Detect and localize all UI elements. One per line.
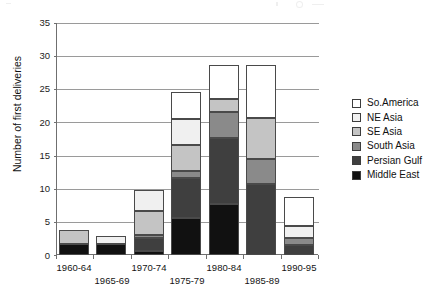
legend-item-se-asia[interactable]: SE Asia xyxy=(352,125,422,139)
y-tick-10: 10 xyxy=(20,184,50,194)
segment-se-asia-1985-89[interactable] xyxy=(246,118,276,158)
y-tick-25: 25 xyxy=(20,84,50,94)
x-label-1990-95: 1990-95 xyxy=(269,263,329,273)
segment-persian-gulf-1990-95[interactable] xyxy=(284,245,314,255)
y-tick-0: 0 xyxy=(20,251,50,261)
legend-swatch-icon xyxy=(352,99,361,108)
bars-layer xyxy=(56,23,318,255)
segment-persian-gulf-1980-84[interactable] xyxy=(209,138,239,204)
segment-persian-gulf-1975-79[interactable] xyxy=(171,178,201,218)
y-tick-15: 15 xyxy=(20,151,50,161)
legend-swatch-icon xyxy=(352,113,361,122)
segment-se-asia-1975-79[interactable] xyxy=(171,145,201,172)
legend-item-persian-gulf[interactable]: Persian Gulf xyxy=(352,154,422,168)
segment-south-asia-1970-74[interactable] xyxy=(134,235,164,238)
y-tick-35: 35 xyxy=(20,18,50,28)
segment-ne-asia-1990-95[interactable] xyxy=(284,226,314,239)
legend-item-south-asia[interactable]: South Asia xyxy=(352,139,422,153)
legend-item-middle-east[interactable]: Middle East xyxy=(352,168,422,182)
x-label-1965-69: 1965-69 xyxy=(82,276,142,286)
segment-persian-gulf-1970-74[interactable] xyxy=(134,238,164,251)
chart-legend: So.AmericaNE AsiaSE AsiaSouth AsiaPersia… xyxy=(352,96,422,182)
y-tick-5: 5 xyxy=(20,217,50,227)
segment-so-america-1980-84[interactable] xyxy=(209,65,239,98)
segment-so-america-1985-89[interactable] xyxy=(246,65,276,118)
segment-middle-east-1975-79[interactable] xyxy=(171,218,201,255)
segment-middle-east-1980-84[interactable] xyxy=(209,204,239,255)
segment-middle-east-1970-74[interactable] xyxy=(134,251,164,255)
x-label-1975-79: 1975-79 xyxy=(157,276,217,286)
scan-artifact xyxy=(0,0,446,11)
legend-item-label: SE Asia xyxy=(367,127,402,137)
x-label-1970-74: 1970-74 xyxy=(119,263,179,273)
segment-se-asia-1960-64[interactable] xyxy=(59,230,89,244)
legend-item-so-america[interactable]: So.America xyxy=(352,96,422,110)
segment-se-asia-1970-74[interactable] xyxy=(134,211,164,235)
legend-item-label: Persian Gulf xyxy=(367,156,422,166)
segment-persian-gulf-1985-89[interactable] xyxy=(246,184,276,255)
segment-ne-asia-1965-69[interactable] xyxy=(96,236,126,243)
legend-item-label: Middle East xyxy=(367,170,419,180)
legend-swatch-icon xyxy=(352,142,361,151)
segment-south-asia-1985-89[interactable] xyxy=(246,159,276,184)
segment-se-asia-1980-84[interactable] xyxy=(209,99,239,112)
segment-ne-asia-1975-79[interactable] xyxy=(171,119,201,145)
legend-item-ne-asia[interactable]: NE Asia xyxy=(352,110,422,124)
x-label-1960-64: 1960-64 xyxy=(44,263,104,273)
segment-middle-east-1960-64[interactable] xyxy=(59,244,89,255)
legend-swatch-icon xyxy=(352,171,361,180)
legend-swatch-icon xyxy=(352,156,361,165)
segment-ne-asia-1970-74[interactable] xyxy=(134,190,164,211)
segment-south-asia-1975-79[interactable] xyxy=(171,171,201,178)
legend-item-label: So.America xyxy=(367,98,419,108)
x-label-1985-89: 1985-89 xyxy=(232,276,292,286)
y-tick-30: 30 xyxy=(20,51,50,61)
legend-item-label: NE Asia xyxy=(367,113,403,123)
legend-item-label: South Asia xyxy=(367,141,415,151)
stacked-bar-chart: 35 30 25 20 15 10 5 0 Number of first de… xyxy=(0,0,446,293)
segment-south-asia-1980-84[interactable] xyxy=(209,112,239,138)
segment-middle-east-1965-69[interactable] xyxy=(96,244,126,255)
segment-so-america-1990-95[interactable] xyxy=(284,197,314,226)
segment-south-asia-1990-95[interactable] xyxy=(284,238,314,245)
segment-so-america-1975-79[interactable] xyxy=(171,92,201,119)
x-label-1980-84: 1980-84 xyxy=(194,263,254,273)
legend-swatch-icon xyxy=(352,127,361,136)
y-tick-20: 20 xyxy=(20,118,50,128)
y-axis-title: Number of first deliveries xyxy=(11,4,23,224)
